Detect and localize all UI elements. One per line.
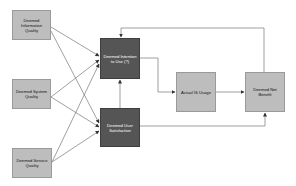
node-net-benefit: Deemed Net Benefit — [245, 72, 285, 112]
node-label: Deemed User Satisfaction — [102, 123, 138, 133]
node-user-satisfaction: Deemed User Satisfaction — [100, 108, 140, 147]
node-label: Actual IS Usage — [181, 90, 211, 95]
node-label: Deemed System Quality — [14, 89, 49, 99]
is-success-model-diagram: Deemed Information Quality Deemed System… — [0, 0, 296, 186]
node-service-quality: Deemed Service Quality — [12, 148, 52, 178]
node-information-quality: Deemed Information Quality — [12, 10, 51, 40]
edge-system-to-satisfaction — [51, 97, 99, 127]
edge-intention-to-usage — [140, 58, 175, 92]
node-intention-to-use: Deemed Intention to Use (?) — [100, 38, 140, 79]
edge-netbenefit-to-intention — [121, 28, 264, 72]
edge-satisfaction-to-netbenefit — [140, 113, 265, 126]
edge-info-to-intention — [51, 27, 99, 56]
edge-info-to-satisfaction — [51, 31, 99, 123]
node-system-quality: Deemed System Quality — [12, 79, 51, 109]
node-actual-usage: Actual IS Usage — [176, 72, 216, 112]
node-label: Deemed Intention to Use (?) — [102, 54, 138, 64]
node-label: Deemed Information Quality — [14, 18, 49, 33]
node-label: Deemed Net Benefit — [247, 87, 283, 97]
node-label: Deemed Service Quality — [14, 158, 50, 168]
